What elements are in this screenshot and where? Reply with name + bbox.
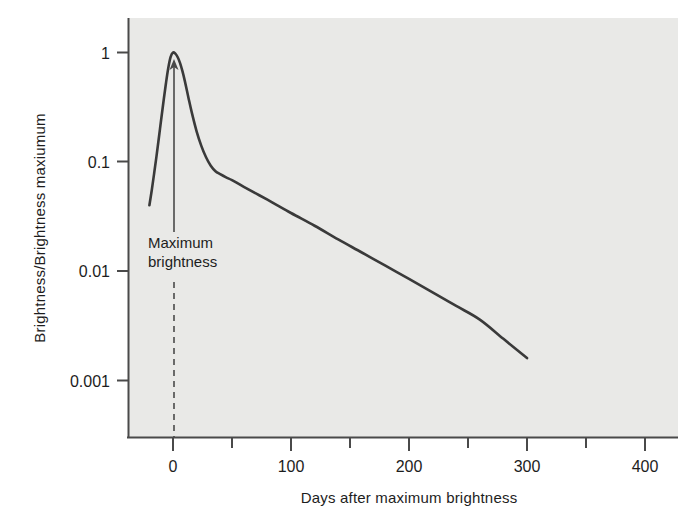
y-tick-label: 0.1 — [88, 154, 110, 171]
x-axis-tick-labels: 0 100 200 300 400 — [169, 458, 659, 475]
y-axis-tick-labels: 1 0.1 0.01 0.001 — [70, 45, 110, 390]
y-tick-label: 0.001 — [70, 373, 110, 390]
annotation-text-line1: Maximum — [148, 234, 213, 251]
y-tick-label: 0.01 — [79, 263, 110, 280]
x-tick-label: 200 — [396, 458, 423, 475]
plot-area-background — [128, 18, 678, 437]
x-axis-ticks — [173, 437, 645, 451]
x-tick-label: 400 — [632, 458, 659, 475]
x-axis-title: Days after maximum brightness — [301, 489, 518, 506]
y-tick-label: 1 — [101, 45, 110, 62]
y-axis-ticks — [117, 53, 129, 381]
annotation-text-line2: brightness — [148, 253, 217, 270]
x-tick-label: 0 — [169, 458, 178, 475]
y-axis-title: Brightness/Brightness maxiumum — [31, 113, 48, 342]
x-tick-label: 100 — [278, 458, 305, 475]
x-tick-label: 300 — [514, 458, 541, 475]
supernova-light-curve-figure: 1 0.1 0.01 0.001 0 100 200 300 400 Days … — [0, 0, 696, 521]
